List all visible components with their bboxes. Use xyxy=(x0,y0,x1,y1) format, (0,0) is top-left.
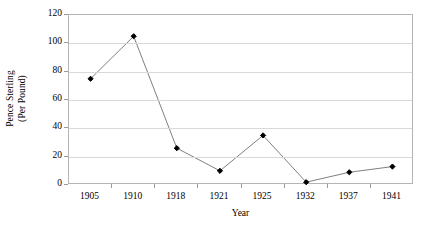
y-axis-tick-mark xyxy=(64,127,68,128)
x-axis-tick-label: 1937 xyxy=(339,191,358,202)
data-point-marker xyxy=(390,164,395,169)
plot-area xyxy=(68,14,413,184)
x-axis-tick-mark xyxy=(284,184,285,188)
y-axis-tick-mark xyxy=(64,71,68,72)
y-axis-tick-label: 0 xyxy=(28,179,66,189)
y-axis-title-line1: Pence Sterling xyxy=(5,70,17,127)
gridline xyxy=(69,128,412,129)
x-axis-tick-label: 1941 xyxy=(382,191,401,202)
y-axis-tick-mark xyxy=(64,184,68,185)
line-chart: Pence Sterling (Per Pound) 0204060801001… xyxy=(0,0,427,235)
y-axis-tick-labels: 020406080100120 xyxy=(28,0,66,235)
x-axis-tick-label: 1918 xyxy=(166,191,185,202)
x-axis-tick-mark xyxy=(154,184,155,188)
y-axis-tick-label: 80 xyxy=(28,66,66,76)
data-point-marker xyxy=(347,170,352,175)
x-axis-tick-mark xyxy=(327,184,328,188)
x-axis-tick-label: 1905 xyxy=(80,191,99,202)
y-axis-tick-mark xyxy=(64,42,68,43)
y-axis-title: Pence Sterling (Per Pound) xyxy=(2,0,30,196)
y-axis-tick-label: 60 xyxy=(28,94,66,104)
gridline xyxy=(69,100,412,101)
x-axis-tick-label: 1910 xyxy=(123,191,142,202)
x-axis-title: Year xyxy=(68,208,413,219)
y-axis-tick-label: 20 xyxy=(28,151,66,161)
y-axis-tick-mark xyxy=(64,156,68,157)
gridline xyxy=(69,72,412,73)
y-axis-tick-mark xyxy=(64,99,68,100)
x-axis-tick-mark xyxy=(111,184,112,188)
gridline xyxy=(69,157,412,158)
series-line xyxy=(91,36,393,182)
data-point-marker xyxy=(174,146,179,151)
y-axis-tick-label: 100 xyxy=(28,38,66,48)
gridline xyxy=(69,43,412,44)
y-axis-tick-label: 40 xyxy=(28,123,66,133)
x-axis-tick-mark xyxy=(197,184,198,188)
x-axis-tick-label: 1921 xyxy=(209,191,228,202)
x-axis-tick-label: 1932 xyxy=(296,191,315,202)
x-axis-tick-mark xyxy=(370,184,371,188)
y-axis-tick-label: 120 xyxy=(28,9,66,19)
x-axis-tick-label: 1925 xyxy=(253,191,272,202)
y-axis-title-line2: (Per Pound) xyxy=(16,70,28,127)
y-axis-tick-mark xyxy=(64,14,68,15)
x-axis-tick-mark xyxy=(241,184,242,188)
